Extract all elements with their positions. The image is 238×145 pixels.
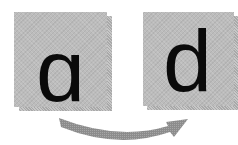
curved-arrow-icon: [0, 0, 238, 145]
